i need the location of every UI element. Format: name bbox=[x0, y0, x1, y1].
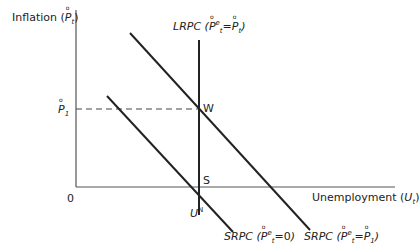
y-axis-label: Inflation (Pt) bbox=[12, 12, 78, 26]
point-w-label: W bbox=[203, 103, 214, 114]
lrpc-label: LRPC (Pet=Pt) bbox=[173, 20, 246, 35]
srpc-p1-line bbox=[130, 33, 310, 230]
origin-label: 0 bbox=[67, 193, 74, 204]
srpc-zero-line bbox=[107, 96, 233, 232]
natural-rate-label: UN bbox=[190, 207, 203, 219]
srpc-zero-label: SRPC (Pet=0) bbox=[224, 230, 295, 245]
point-s-label: S bbox=[203, 175, 210, 186]
x-axis-label: Unemployment (Ut) bbox=[312, 192, 419, 206]
p1-tick-label: P1 bbox=[58, 104, 69, 118]
srpc-p1-label: SRPC (Pet=P1) bbox=[304, 230, 379, 245]
